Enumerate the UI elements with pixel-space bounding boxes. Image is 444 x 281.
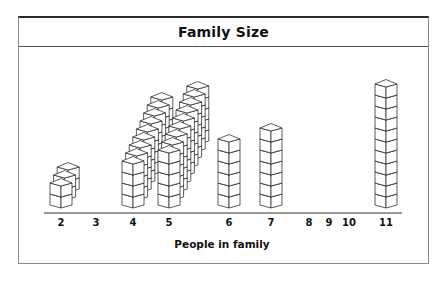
cube-stacks — [50, 80, 397, 209]
x-tick-label: 9 — [326, 217, 333, 228]
x-tick-label: 7 — [268, 217, 275, 228]
x-tick-label: 10 — [342, 217, 356, 228]
family-stack — [260, 124, 282, 209]
x-tick-label: 3 — [93, 217, 100, 228]
x-axis-label: People in family — [0, 238, 444, 250]
x-tick-label: 5 — [166, 217, 173, 228]
x-tick-label: 8 — [306, 217, 313, 228]
family-stack — [218, 135, 240, 209]
x-tick-label: 6 — [226, 217, 233, 228]
x-tick-label: 4 — [130, 217, 137, 228]
family-stack — [158, 146, 180, 209]
family-stack — [50, 179, 72, 209]
x-tick-label: 11 — [379, 217, 393, 228]
family-stack — [375, 80, 397, 209]
x-tick-label: 2 — [58, 217, 65, 228]
family-stack — [122, 157, 144, 209]
